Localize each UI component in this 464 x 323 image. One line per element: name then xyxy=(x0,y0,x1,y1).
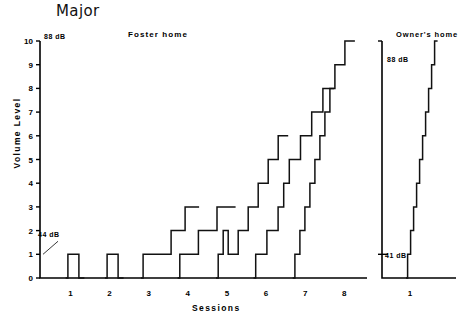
svg-text:10: 10 xyxy=(24,37,33,46)
svg-text:4: 4 xyxy=(29,179,34,188)
svg-text:0: 0 xyxy=(29,274,34,283)
svg-text:3: 3 xyxy=(29,203,34,212)
svg-text:1: 1 xyxy=(408,289,413,298)
svg-text:1: 1 xyxy=(29,250,34,259)
trace-session-7 xyxy=(293,41,355,278)
trace-session-2 xyxy=(105,254,124,278)
svg-text:7: 7 xyxy=(303,289,308,298)
trace-session-3 xyxy=(141,207,199,278)
annotation-leader-lines xyxy=(43,241,58,254)
right-panel-axes xyxy=(378,41,456,278)
svg-text:3: 3 xyxy=(146,289,151,298)
svg-text:2: 2 xyxy=(107,289,112,298)
plot-area: 01234567891012345678 1 xyxy=(0,0,464,323)
svg-text:5: 5 xyxy=(29,156,34,165)
left-panel-tick-labels: 01234567891012345678 xyxy=(24,37,347,298)
svg-text:4: 4 xyxy=(186,289,191,298)
svg-text:6: 6 xyxy=(264,289,269,298)
svg-text:2: 2 xyxy=(29,227,34,236)
svg-text:8: 8 xyxy=(342,289,347,298)
right-panel-tick-labels: 1 xyxy=(408,289,413,298)
svg-text:8: 8 xyxy=(29,84,34,93)
svg-text:6: 6 xyxy=(29,132,34,141)
right-panel-traces xyxy=(406,41,438,278)
svg-text:5: 5 xyxy=(225,289,230,298)
trace-session-4 xyxy=(178,207,236,278)
trace-session-1 xyxy=(66,254,85,278)
svg-text:9: 9 xyxy=(29,61,34,70)
svg-text:1: 1 xyxy=(68,289,73,298)
left-panel-traces xyxy=(66,41,355,278)
trace-owner-session-1 xyxy=(406,41,438,278)
svg-text:7: 7 xyxy=(29,108,34,117)
chart-canvas: Major Foster home Owner's home Volume Le… xyxy=(0,0,464,323)
